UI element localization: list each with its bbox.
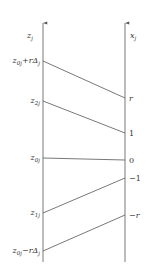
mapping-line [43,158,125,160]
right-value-label: r [129,94,134,103]
mapping-line [43,178,125,213]
mapping-line [43,61,125,98]
right-value-label: 1 [129,129,134,138]
mapping-line [43,215,125,251]
left-value-label: z0j+rΔj [12,56,41,67]
right-value-label: −1 [129,174,141,183]
left-value-label: z0j [30,153,41,164]
left-axis-label: zj [26,31,33,42]
right-value-label: 0 [129,156,134,165]
left-value-label: z2j [30,96,41,107]
right-value-label: −r [129,211,141,220]
right-axis-label: xj [130,31,137,42]
mapping-diagram: zj xj z0j+rΔjrz2j1z0j0z1j−1z0j−rΔj−r [0,0,149,280]
left-value-label: z0j−rΔj [12,246,41,257]
left-value-label: z1j [30,208,41,219]
mapping-line [43,101,125,133]
